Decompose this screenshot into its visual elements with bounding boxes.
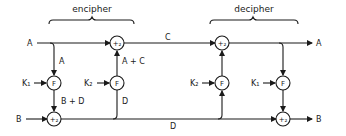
f-node-3: F: [215, 76, 229, 90]
encipher-brace: [49, 17, 134, 24]
svg-text:+₂: +₂: [279, 116, 288, 124]
svg-text:F: F: [281, 80, 285, 88]
svg-text:F: F: [52, 80, 56, 88]
output-a-label: A: [316, 39, 322, 48]
branch-to-f4: [279, 43, 283, 75]
input-b-label: B: [16, 115, 22, 124]
label-a-branch: A: [59, 57, 65, 66]
label-d-bottom: D: [170, 122, 176, 131]
feistel-cipher-diagram: encipher decipher A A C A B D B B + D D …: [0, 0, 346, 136]
xor-adder-1: +₂: [110, 36, 124, 50]
key-k1-left: K₁: [22, 79, 30, 88]
key-k1-right: K₁: [251, 79, 259, 88]
f-node-2: F: [110, 76, 124, 90]
label-c: C: [165, 33, 171, 42]
svg-text:+₂: +₂: [50, 116, 59, 124]
f-node-1: F: [47, 76, 61, 90]
label-a-plus-c: A + C: [122, 57, 145, 66]
label-b-plus-d: B + D: [61, 97, 84, 106]
encipher-label: encipher: [72, 4, 112, 14]
svg-text:+₂: +₂: [218, 40, 227, 48]
line-d-up-to-f3: [218, 91, 222, 119]
line-d-up-to-f2: [113, 90, 117, 119]
xor-adder-0: +₂: [47, 112, 61, 126]
decipher-label: decipher: [234, 4, 274, 14]
f-node-4: F: [276, 76, 290, 90]
svg-text:F: F: [115, 80, 119, 88]
key-k2-left: K₂: [84, 79, 92, 88]
branch-a-to-f1: [50, 43, 54, 75]
xor-adder-3: +₂: [276, 112, 290, 126]
xor-adder-2: +₂: [215, 36, 229, 50]
label-d-middle: D: [122, 97, 128, 106]
key-k2-right: K₂: [190, 79, 198, 88]
svg-text:+₂: +₂: [113, 40, 122, 48]
decipher-brace: [210, 17, 298, 24]
svg-text:F: F: [220, 80, 224, 88]
output-b-label: B: [316, 115, 322, 124]
input-a-label: A: [27, 39, 33, 48]
